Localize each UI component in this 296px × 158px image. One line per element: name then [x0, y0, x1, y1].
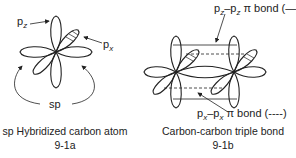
figure-number-a: 9-1a [0, 139, 130, 151]
sp-carbon-atom [20, 16, 92, 88]
caption-b: Carbon-carbon triple bond [150, 125, 296, 137]
sp-label: sp [49, 98, 61, 110]
px-label: px [103, 38, 113, 53]
px-px-pi-bond-label: px–px π bond (----) [197, 107, 287, 122]
pz-label: pz [17, 15, 27, 30]
caption-a: sp Hybridized carbon atom [0, 125, 130, 137]
figure-number-b: 9-1b [150, 139, 296, 151]
pz-pz-pi-bond-label: pz–pz π bond (—) [214, 2, 296, 17]
